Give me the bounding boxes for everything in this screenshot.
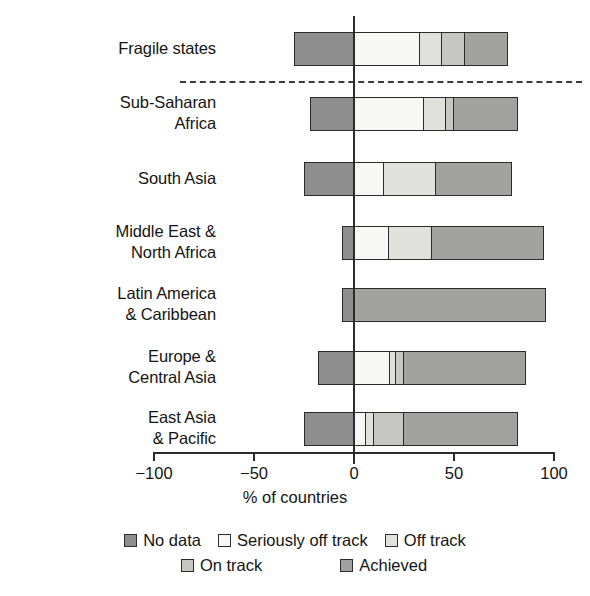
bar-segment[interactable] — [374, 413, 404, 445]
stacked-bar[interactable] — [294, 32, 508, 66]
legend-swatch-icon — [124, 534, 137, 547]
x-tick-label: 50 — [445, 463, 463, 483]
bar-segment[interactable] — [305, 413, 355, 445]
bar-segment[interactable] — [432, 227, 543, 259]
bar-segment[interactable] — [446, 98, 454, 130]
stacked-bar[interactable] — [304, 412, 518, 446]
legend-label: No data — [143, 531, 201, 550]
legend-label: Off track — [404, 531, 466, 550]
legend-label: On track — [200, 556, 262, 575]
x-tick-label: 100 — [540, 463, 568, 483]
legend-item[interactable]: Achieved — [340, 556, 427, 575]
bar-segment[interactable] — [319, 352, 355, 384]
x-tick — [353, 452, 355, 461]
bar-segment[interactable] — [420, 33, 442, 65]
x-tick-label: 0 — [349, 463, 358, 483]
stacked-bar[interactable] — [318, 351, 526, 385]
legend-item[interactable]: Seriously off track — [218, 531, 368, 550]
bar-segment[interactable] — [454, 98, 517, 130]
legend-swatch-icon — [218, 534, 231, 547]
bar-segment[interactable] — [442, 33, 466, 65]
legend-item[interactable]: On track — [181, 556, 262, 575]
dashed-separator-line — [180, 81, 582, 83]
bar-segment[interactable] — [404, 352, 525, 384]
legend-item[interactable]: Off track — [385, 531, 466, 550]
legend-swatch-icon — [181, 559, 194, 572]
stacked-bar[interactable] — [342, 288, 546, 322]
legend-swatch-icon — [385, 534, 398, 547]
bar-segment[interactable] — [384, 163, 436, 195]
legend-swatch-icon — [340, 559, 353, 572]
bar-segment[interactable] — [355, 289, 545, 321]
bar-segment[interactable] — [396, 352, 404, 384]
legend-row: No dataSeriously off trackOff track — [0, 528, 590, 553]
chart-container: Fragile statesSub-Saharan AfricaSouth As… — [0, 0, 590, 596]
x-tick — [153, 452, 155, 461]
x-axis-title: % of countries — [0, 488, 590, 507]
bar-segment[interactable] — [355, 98, 424, 130]
bar-segment[interactable] — [355, 227, 389, 259]
x-axis: −100−50050100 % of countries — [0, 452, 590, 512]
bar-segment[interactable] — [311, 98, 355, 130]
x-tick — [553, 452, 555, 461]
plot-area — [0, 0, 590, 460]
bar-segment[interactable] — [355, 413, 367, 445]
bar-segment[interactable] — [389, 227, 433, 259]
legend-item[interactable]: No data — [124, 531, 201, 550]
x-tick — [253, 452, 255, 461]
bar-segment[interactable] — [404, 413, 517, 445]
stacked-bar[interactable] — [310, 97, 518, 131]
bar-segment[interactable] — [295, 33, 354, 65]
legend: No dataSeriously off trackOff trackOn tr… — [0, 528, 590, 578]
zero-axis-line — [353, 16, 355, 464]
bar-segment[interactable] — [436, 163, 511, 195]
legend-label: Achieved — [359, 556, 427, 575]
legend-label: Seriously off track — [237, 531, 368, 550]
bar-segment[interactable] — [355, 352, 391, 384]
bar-segment[interactable] — [465, 33, 507, 65]
bar-segment[interactable] — [424, 98, 446, 130]
bar-segment[interactable] — [355, 163, 385, 195]
stacked-bar[interactable] — [342, 226, 544, 260]
x-tick — [453, 452, 455, 461]
stacked-bar[interactable] — [304, 162, 512, 196]
x-tick-label: −100 — [135, 463, 172, 483]
bar-segment[interactable] — [354, 33, 419, 65]
bar-segment[interactable] — [305, 163, 355, 195]
bar-segment[interactable] — [366, 413, 374, 445]
x-tick-label: −50 — [240, 463, 268, 483]
legend-row: On trackAchieved — [0, 553, 590, 578]
